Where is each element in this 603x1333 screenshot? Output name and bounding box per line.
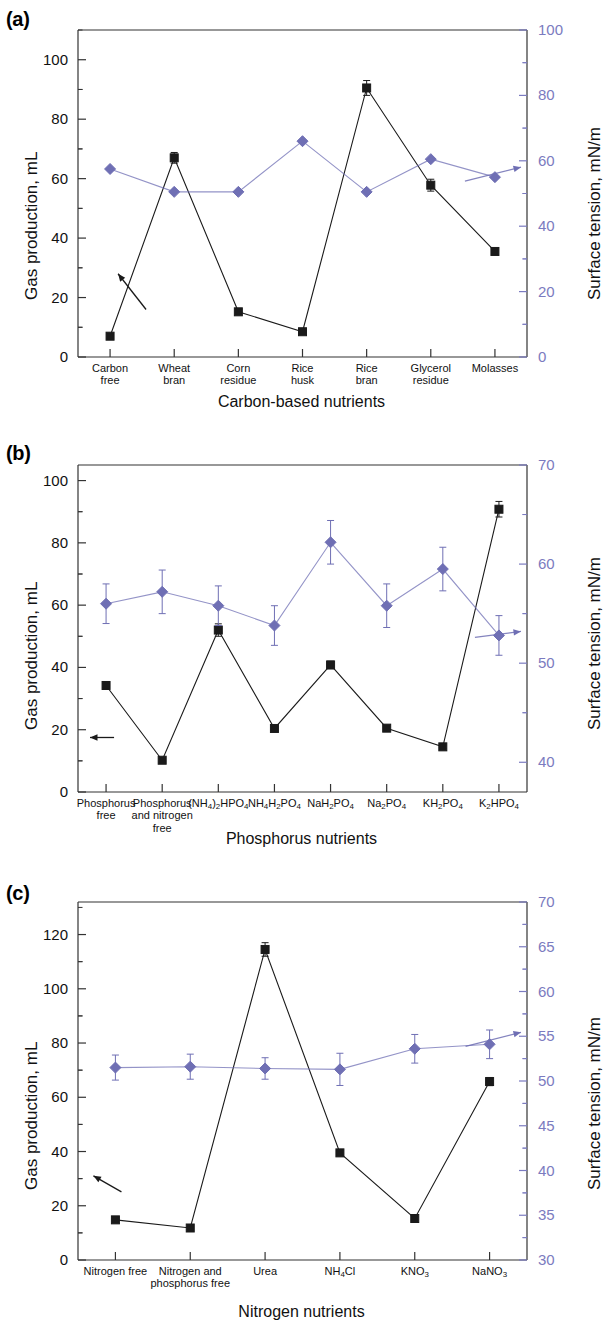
panel-b-plot: 02040608010040506070: [0, 430, 603, 860]
svg-text:50: 50: [538, 654, 555, 671]
svg-text:60: 60: [538, 152, 555, 169]
category-label: Cornresidue: [201, 362, 275, 387]
svg-text:20: 20: [51, 1197, 68, 1214]
svg-text:80: 80: [51, 1034, 68, 1051]
svg-text:40: 40: [51, 658, 68, 675]
panel-b-xlabel: Phosphorus nutrients: [0, 830, 603, 848]
panel-b: (b) Gas production, mL Surface tension, …: [0, 430, 603, 860]
figure-root: (a) Gas production, mL Surface tension, …: [0, 0, 603, 1333]
svg-text:100: 100: [43, 980, 68, 997]
svg-text:0: 0: [60, 1251, 68, 1268]
svg-text:100: 100: [43, 472, 68, 489]
svg-text:120: 120: [43, 926, 68, 943]
svg-text:20: 20: [51, 721, 68, 738]
svg-text:60: 60: [51, 170, 68, 187]
svg-text:40: 40: [538, 753, 555, 770]
svg-text:80: 80: [51, 534, 68, 551]
panel-c-plot: 020406080100120303540455055606570: [0, 860, 603, 1333]
svg-text:40: 40: [51, 1143, 68, 1160]
svg-text:60: 60: [538, 983, 555, 1000]
category-label: Carbonfree: [73, 362, 147, 387]
category-label: K2HPO4: [465, 797, 533, 809]
category-label: Wheatbran: [137, 362, 211, 387]
svg-text:70: 70: [538, 893, 555, 910]
panel-a-xlabel: Carbon-based nutrients: [0, 393, 603, 411]
svg-text:45: 45: [538, 1117, 555, 1134]
panel-c-xlabel: Nitrogen nutrients: [0, 1303, 603, 1321]
svg-text:35: 35: [538, 1206, 555, 1223]
svg-text:0: 0: [538, 348, 546, 365]
svg-text:20: 20: [538, 283, 555, 300]
category-label: KNO3: [372, 1265, 458, 1277]
category-label: Glycerolresidue: [394, 362, 468, 387]
svg-text:80: 80: [538, 86, 555, 103]
svg-text:40: 40: [51, 229, 68, 246]
svg-text:40: 40: [538, 217, 555, 234]
svg-text:30: 30: [538, 1251, 555, 1268]
svg-text:60: 60: [51, 596, 68, 613]
category-label: NaNO3: [447, 1265, 533, 1277]
svg-text:50: 50: [538, 1072, 555, 1089]
svg-text:55: 55: [538, 1027, 555, 1044]
panel-a: (a) Gas production, mL Surface tension, …: [0, 0, 603, 430]
svg-text:0: 0: [60, 348, 68, 365]
svg-text:70: 70: [538, 456, 555, 473]
svg-text:65: 65: [538, 938, 555, 955]
category-label: Molasses: [458, 362, 532, 374]
category-label: Nitrogen free: [72, 1265, 158, 1277]
category-label: Ricebran: [330, 362, 404, 387]
svg-text:0: 0: [60, 783, 68, 800]
category-label: Ricehusk: [266, 362, 340, 387]
svg-text:100: 100: [43, 51, 68, 68]
svg-text:60: 60: [51, 1088, 68, 1105]
panel-c: (c) Gas production, mL Surface tension, …: [0, 860, 603, 1333]
category-label: Urea: [222, 1265, 308, 1277]
svg-text:40: 40: [538, 1162, 555, 1179]
svg-text:100: 100: [538, 21, 563, 38]
svg-text:20: 20: [51, 289, 68, 306]
svg-text:80: 80: [51, 110, 68, 127]
category-label: NH4Cl: [297, 1265, 383, 1277]
svg-text:60: 60: [538, 555, 555, 572]
category-label: Nitrogen andphosphorus free: [147, 1265, 233, 1290]
